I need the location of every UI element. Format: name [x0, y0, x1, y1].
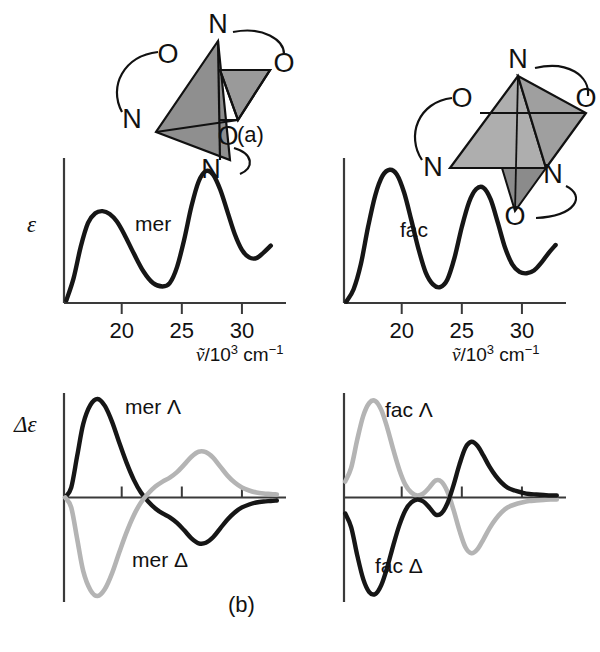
mer-atom-4: O	[217, 121, 238, 151]
curve-label-mer-abs: mer	[135, 212, 171, 236]
panel-tag-a: (a)	[237, 122, 264, 148]
mer-atom-2: O	[273, 48, 294, 78]
x-axis-exp-mer: 3	[231, 342, 238, 357]
chart-mer-abs-tick-label-30: 30	[230, 318, 254, 343]
mer-chelate-arc-2	[117, 52, 158, 112]
mer-absorption-chart: 202530	[42, 150, 292, 355]
chart-fac-abs-tick-label-30: 30	[510, 318, 534, 343]
curve-label-mer-delta: mer Δ	[132, 548, 188, 572]
chart-mer-abs-tick-label-20: 20	[109, 318, 133, 343]
mer-atom-0: N	[208, 9, 228, 39]
chart-mer-cd-series-0	[65, 399, 277, 544]
mer-atom-1: O	[157, 39, 178, 69]
fac-atom-2: O	[575, 83, 596, 113]
chart-fac-abs-tick-label-25: 25	[450, 318, 474, 343]
mer-atom-3: N	[122, 104, 142, 134]
chart-fac-abs-series-0	[346, 170, 555, 302]
chart-fac-abs-tick-label-20: 20	[389, 318, 413, 343]
x-axis-slash-fac: /10	[460, 344, 486, 365]
chart-fac-cd-series-0	[345, 400, 557, 553]
curve-label-mer-lambda: mer Λ	[125, 395, 181, 419]
x-axis-slash-mer: /10	[204, 344, 230, 365]
fac-atom-0: N	[508, 44, 528, 74]
mer-face-right	[220, 70, 270, 120]
fac-cd-chart	[322, 385, 572, 630]
fac-atom-1: O	[451, 83, 472, 113]
x-axis-unit-exp-fac: −1	[525, 342, 540, 357]
x-axis-unit-exp-mer: −1	[269, 342, 284, 357]
curve-label-fac-lambda: fac Λ	[385, 398, 433, 422]
curve-label-fac-abs: fac	[400, 218, 428, 242]
y-axis-label-absorption-mer: ε	[27, 212, 36, 238]
chart-mer-cd-series-1	[65, 451, 277, 596]
x-axis-exp-fac: 3	[487, 342, 494, 357]
panel-tag-b: (b)	[228, 592, 255, 618]
x-axis-caption-fac: ṽ/103 cm−1	[452, 342, 540, 366]
fac-absorption-svg: 202530	[322, 150, 572, 355]
y-axis-label-cd-mer: Δε	[14, 412, 37, 438]
x-axis-unit-mer: cm	[238, 344, 269, 365]
curve-label-fac-delta: fac Δ	[375, 554, 423, 578]
x-axis-caption-mer: ṽ/103 cm−1	[196, 342, 284, 366]
mer-absorption-svg: 202530	[42, 150, 292, 355]
chart-mer-abs-tick-label-25: 25	[170, 318, 194, 343]
fac-cd-svg	[322, 385, 572, 630]
x-axis-unit-fac: cm	[494, 344, 525, 365]
fac-absorption-chart: 202530	[322, 150, 572, 355]
